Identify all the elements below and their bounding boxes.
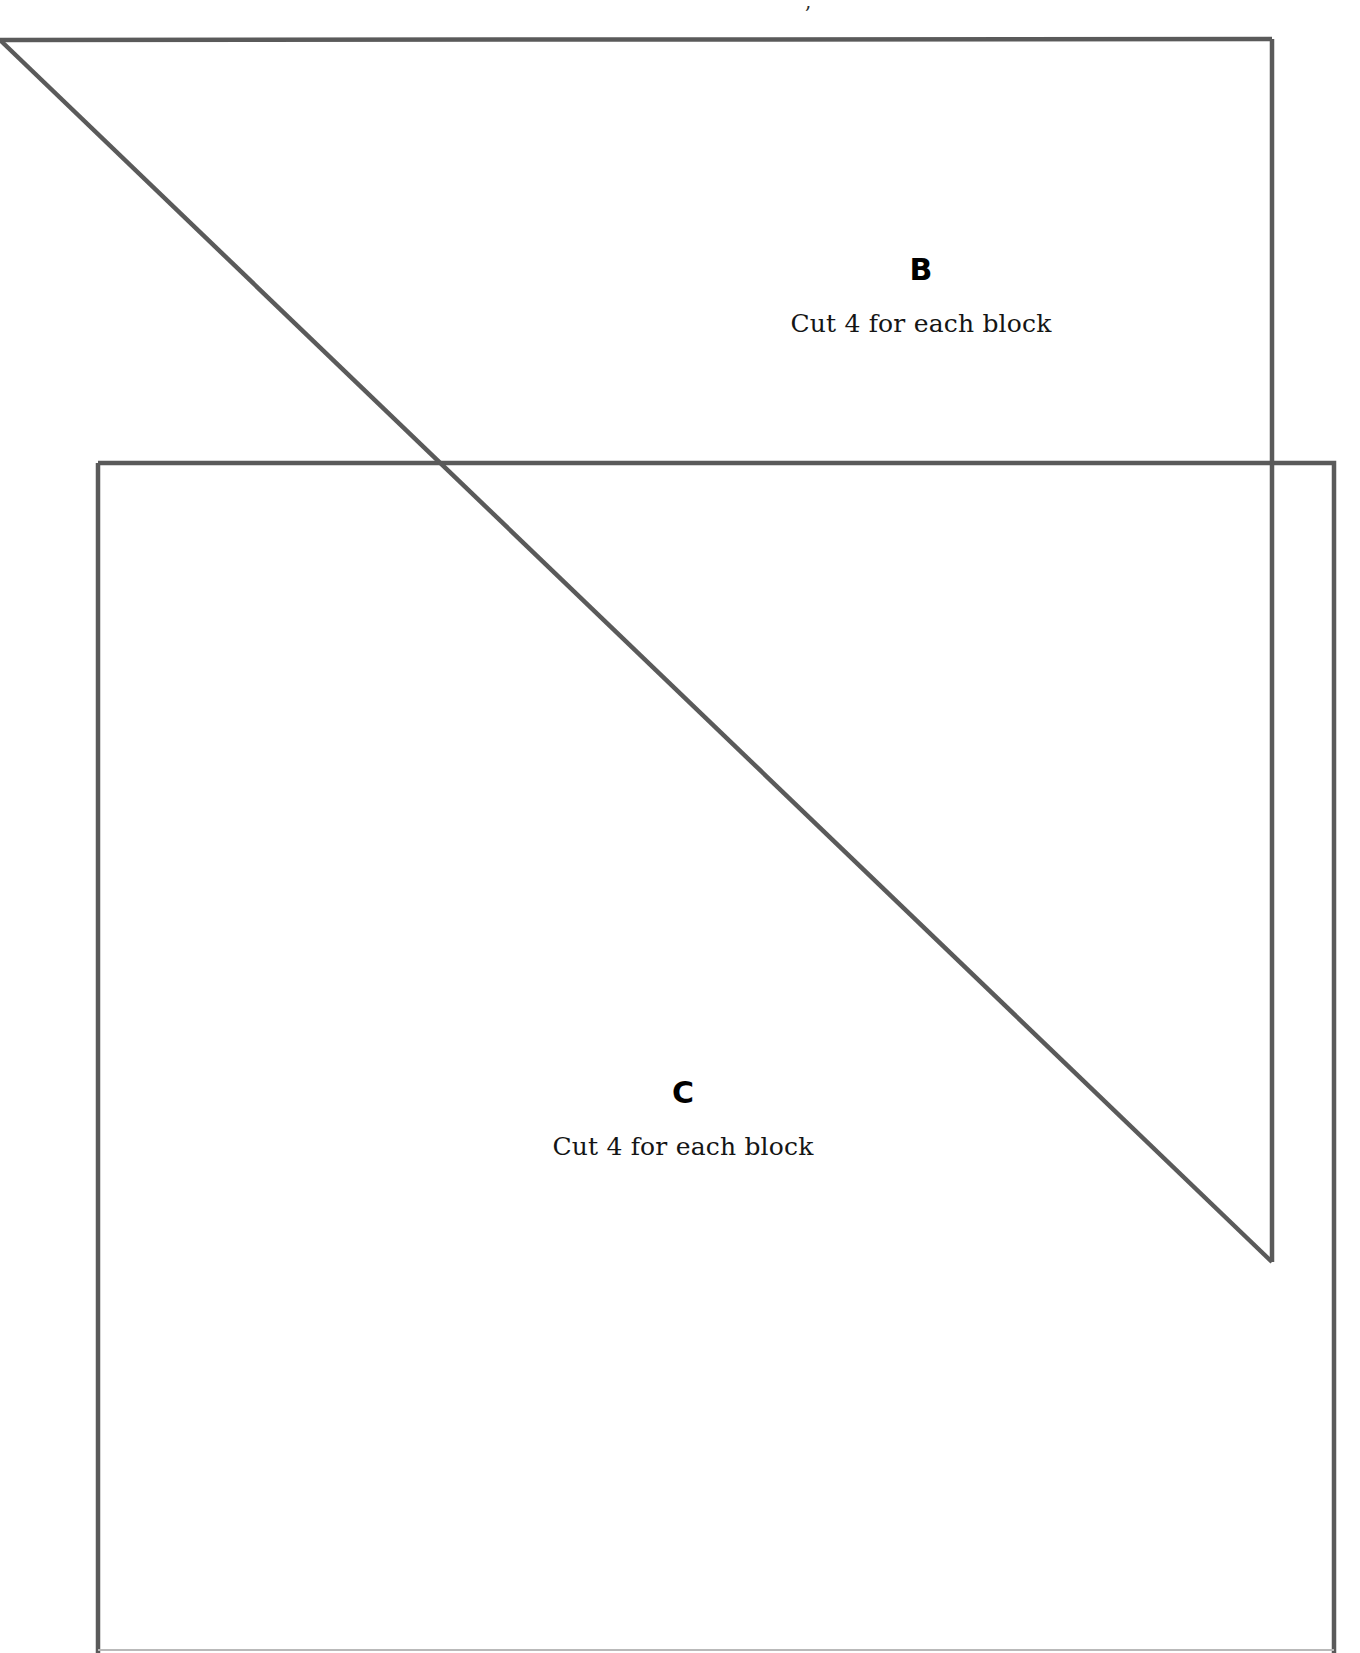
template-page: , B Cut 4 for each block C Cut 4 for eac… xyxy=(0,0,1360,1653)
top-edge-text-fragment: , xyxy=(805,0,811,11)
piece-b-top-edge xyxy=(0,39,1272,40)
pattern-drawing xyxy=(0,0,1360,1653)
piece-c-top-right-edges xyxy=(98,463,1334,1653)
piece-c-outline xyxy=(98,463,1334,1653)
piece-b-hypotenuse xyxy=(0,40,1272,1262)
piece-b-outline xyxy=(0,39,1272,1262)
